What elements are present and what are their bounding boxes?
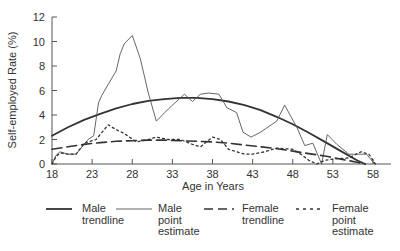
axes: 024681012182328333843485358 (33, 11, 391, 180)
legend-label: Female point estimate (332, 203, 392, 238)
x-tick-label: 38 (206, 168, 218, 180)
y-tick-label: 8 (39, 60, 45, 72)
x-tick-label: 48 (287, 168, 299, 180)
x-tick-label: 18 (46, 168, 58, 180)
legend-item-male-point-estimate: Male point estimate (112, 203, 218, 238)
legend-label: Female trendline (242, 203, 302, 226)
x-tick-label: 53 (327, 168, 339, 180)
legend-item-female-trendline: Female trendline (204, 203, 302, 226)
dashed-line-icon (204, 203, 236, 215)
y-axis-label: Self-employed Rate (%) (6, 32, 18, 149)
x-tick-label: 23 (86, 168, 98, 180)
y-tick-label: 6 (39, 85, 45, 97)
x-tick-label: 33 (166, 168, 178, 180)
y-tick-label: 10 (33, 36, 45, 48)
solid-thin-line-icon (112, 203, 152, 215)
x-axis-label: Age in Years (182, 180, 244, 192)
x-tick-label: 43 (247, 168, 259, 180)
legend: Male trendline Male point estimate Femal… (0, 203, 400, 251)
series-lines (52, 35, 375, 164)
series-female-point-estimate (52, 125, 375, 164)
legend-item-female-point-estimate: Female point estimate (294, 203, 392, 238)
x-tick-label: 28 (126, 168, 138, 180)
y-tick-label: 2 (39, 134, 45, 146)
x-tick-label: 58 (367, 168, 379, 180)
solid-thick-line-icon (44, 203, 76, 215)
dotted-line-icon (294, 203, 326, 215)
y-tick-label: 12 (33, 11, 45, 23)
series-female-trendline (52, 140, 365, 164)
y-tick-label: 0 (39, 158, 45, 170)
y-tick-label: 4 (39, 109, 45, 121)
series-male-trendline (52, 98, 365, 164)
